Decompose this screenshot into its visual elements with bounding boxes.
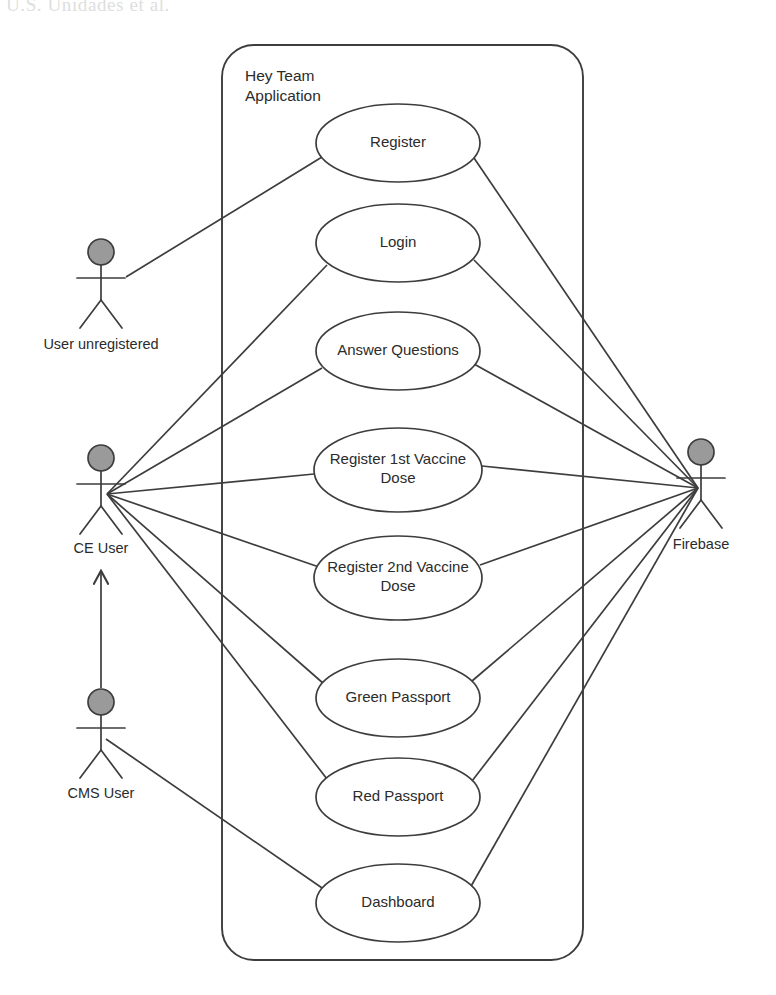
use-case-answer-questions[interactable]: Answer Questions: [316, 312, 480, 390]
use-case-label-register-1st-dose: Dose: [380, 469, 415, 486]
use-case-label-register-2nd-dose: Register 2nd Vaccine: [327, 558, 468, 575]
use-case-register-1st-dose[interactable]: Register 1st VaccineDose: [314, 428, 482, 512]
association-register-firebase: [474, 158, 698, 488]
use-case-label-register-2nd-dose: Dose: [380, 577, 415, 594]
association-ce-register-2nd: [107, 494, 319, 567]
association-ce-register-1st: [107, 474, 314, 494]
association-cms-dashboard: [106, 739, 325, 890]
association-dashboard-firebase: [470, 488, 698, 888]
use-case-dashboard[interactable]: Dashboard: [316, 864, 480, 942]
use-case-register[interactable]: Register: [316, 104, 480, 182]
actor-head-icon-firebase: [688, 439, 714, 465]
actor-label-ce-user: CE User: [74, 540, 129, 556]
use-case-label-dashboard: Dashboard: [361, 893, 434, 910]
actor-firebase[interactable]: Firebase: [673, 439, 729, 552]
actor-head-icon-user-unregistered: [88, 239, 114, 265]
actor-user-unregistered[interactable]: User unregistered: [43, 239, 158, 352]
use-case-green-passport[interactable]: Green Passport: [316, 659, 480, 737]
actor-label-user-unregistered: User unregistered: [43, 336, 158, 352]
use-case-red-passport[interactable]: Red Passport: [316, 758, 480, 836]
association-ce-login: [107, 265, 327, 494]
actor-ce-user[interactable]: CE User: [74, 445, 129, 556]
system-boundary-label-line2: Application: [245, 87, 321, 104]
use-case-label-register-1st-dose: Register 1st Vaccine: [330, 450, 466, 467]
use-case-label-login: Login: [380, 233, 417, 250]
association-red-firebase: [472, 488, 698, 781]
association-ce-green-passport: [107, 494, 324, 684]
actor-cms-user[interactable]: CMS User: [68, 689, 135, 801]
use-case-label-register: Register: [370, 133, 426, 150]
actor-leg-right-cms-user: [101, 750, 122, 778]
actor-leg-left-user-unregistered: [80, 300, 101, 328]
use-case-register-2nd-dose[interactable]: Register 2nd VaccineDose: [314, 536, 482, 620]
use-case-login[interactable]: Login: [316, 204, 480, 282]
association-reg2nd-firebase: [480, 488, 698, 565]
use-case-label-red-passport: Red Passport: [353, 787, 445, 804]
association-unreg-register: [126, 157, 322, 277]
actor-head-icon-cms-user: [88, 689, 114, 715]
actor-leg-right-user-unregistered: [101, 300, 122, 328]
use-case-label-green-passport: Green Passport: [345, 688, 451, 705]
system-boundary-label-line1: Hey Team: [245, 67, 315, 84]
actor-head-icon-ce-user: [88, 445, 114, 471]
use-cases: RegisterLoginAnswer QuestionsRegister 1s…: [314, 104, 482, 942]
association-ce-red-passport: [107, 494, 327, 779]
actor-leg-right-firebase: [701, 500, 722, 528]
use-case-diagram: U.S. Unidades et al. Hey Team Applicatio…: [0, 0, 776, 995]
actor-leg-left-cms-user: [80, 750, 101, 778]
actor-leg-left-ce-user: [80, 506, 101, 534]
association-green-firebase: [472, 488, 698, 681]
use-case-label-answer-questions: Answer Questions: [337, 341, 459, 358]
scan-bleed-text: U.S. Unidades et al.: [6, 0, 170, 16]
actor-label-cms-user: CMS User: [68, 785, 135, 801]
association-login-firebase: [474, 260, 698, 488]
association-ce-answer-questions: [107, 368, 322, 494]
actor-label-firebase: Firebase: [673, 536, 729, 552]
diagram-canvas: Hey Team Application RegisterLoginAnswer…: [0, 0, 776, 995]
